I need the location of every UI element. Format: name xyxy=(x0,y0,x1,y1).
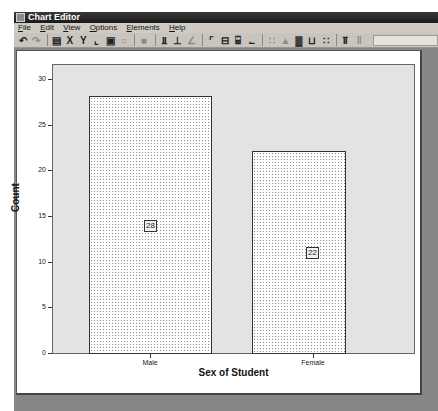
reference-line-y-icon[interactable]: ⫫ xyxy=(159,35,170,46)
app-icon xyxy=(16,13,25,22)
y-tick-mark xyxy=(48,125,52,126)
title-bar[interactable]: Chart Editor xyxy=(14,12,438,23)
x-tick-label-male: Male xyxy=(120,359,180,366)
reference-line-equation-icon[interactable]: ∠ xyxy=(185,35,196,46)
y-tick-mark xyxy=(48,262,52,263)
y-tick-mark xyxy=(48,216,52,217)
bar-chart-icon[interactable]: ▓ xyxy=(293,35,304,46)
menu-bar: File Edit View Options Elements Help xyxy=(14,23,438,33)
menu-edit[interactable]: Edit xyxy=(40,23,54,33)
undo-icon[interactable]: ↶ xyxy=(17,35,28,46)
x-tick-mark xyxy=(313,354,314,358)
toolbar-separator xyxy=(47,34,48,46)
y-tick-label: 5 xyxy=(26,303,46,311)
y-tick-label: 30 xyxy=(26,75,46,83)
redo-icon[interactable]: ↷ xyxy=(30,35,41,46)
menu-view[interactable]: View xyxy=(63,23,80,33)
y-tick-label: 20 xyxy=(26,166,46,174)
y-tick-mark xyxy=(48,353,52,354)
y-tick-mark xyxy=(48,79,52,80)
data-label-female[interactable]: 22 xyxy=(306,247,319,259)
transpose-icon[interactable]: ⫪ xyxy=(340,35,351,46)
x-tick-mark xyxy=(150,354,151,358)
x-axis-icon[interactable]: X xyxy=(64,35,75,46)
menu-elements[interactable]: Elements xyxy=(126,23,159,33)
annotation-icon[interactable]: ⊟ xyxy=(219,35,230,46)
data-labels-icon[interactable]: ▲ xyxy=(280,35,291,46)
toolbar: ↶ ↷ ▤ X Y ⌞ ▣ ○ ■ ⫫ ⊥ ∠ ⌜ ⊟ ⌸ ⨽ ∷ ▲ ▓ ⊔ … xyxy=(14,33,438,48)
y-tick-label: 25 xyxy=(26,121,46,129)
y-tick-label: 0 xyxy=(26,349,46,357)
menu-file[interactable]: File xyxy=(18,23,31,33)
toolbar-field[interactable] xyxy=(373,35,438,46)
toolbar-separator xyxy=(134,34,135,46)
y-tick-label: 15 xyxy=(26,212,46,220)
legend-icon[interactable]: ∷ xyxy=(320,35,331,46)
toolbar-separator xyxy=(155,34,156,46)
title-icon[interactable]: ⌜ xyxy=(206,35,217,46)
menu-options[interactable]: Options xyxy=(90,23,118,33)
fill-icon[interactable]: ■ xyxy=(138,35,149,46)
transparency-icon[interactable]: ○ xyxy=(118,35,129,46)
y-axis-icon[interactable]: Y xyxy=(78,35,89,46)
menu-help[interactable]: Help xyxy=(169,23,185,33)
scale-icon[interactable]: ⌞ xyxy=(91,35,102,46)
frame-icon[interactable]: ▣ xyxy=(104,35,115,46)
text-box-icon[interactable]: ⌸ xyxy=(233,35,244,46)
y-axis-title[interactable]: Count xyxy=(10,183,21,212)
window-title: Chart Editor xyxy=(28,12,80,22)
toolbar-separator xyxy=(336,34,337,46)
error-bar-icon[interactable]: ⊔ xyxy=(306,35,317,46)
toolbar-separator xyxy=(202,34,203,46)
x-axis-title[interactable]: Sex of Student xyxy=(52,367,415,378)
x-tick-label-female: Female xyxy=(283,359,343,366)
toolbar-separator xyxy=(262,34,263,46)
footnote-icon[interactable]: ⨽ xyxy=(246,35,257,46)
reference-line-x-icon[interactable]: ⊥ xyxy=(172,35,183,46)
binning-icon[interactable]: ‖ xyxy=(354,35,365,46)
grid-icon[interactable]: ∷ xyxy=(266,35,277,46)
y-tick-mark xyxy=(48,307,52,308)
bar-female[interactable] xyxy=(252,151,346,354)
screen: Chart Editor File Edit View Options Elem… xyxy=(0,0,438,411)
y-tick-mark xyxy=(48,170,52,171)
y-tick-label: 10 xyxy=(26,258,46,266)
properties-icon[interactable]: ▤ xyxy=(51,35,62,46)
data-label-male[interactable]: 28 xyxy=(144,220,157,232)
